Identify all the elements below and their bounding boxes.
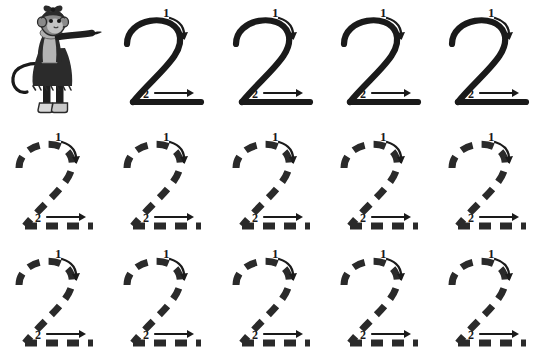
stroke-order-label-2: 2 [252,211,258,225]
worksheet-row-dashed: 1 2 1 2 1 [0,126,546,244]
stroke-order-label-2: 2 [360,211,366,225]
digit-cell-dashed[interactable]: 1 2 [222,243,330,361]
digit-cell-dashed[interactable]: 1 2 [438,126,546,244]
tracing-worksheet: 1 2 1 2 [0,0,546,361]
stroke-order-label-1: 1 [163,5,170,20]
stroke-order-label-1: 1 [272,246,279,261]
stroke-order-label-1: 1 [488,129,495,144]
stroke-order-label-1: 1 [488,246,495,261]
stroke-order-label-1: 1 [163,129,170,144]
stroke-order-label-1: 1 [272,129,279,144]
worksheet-row-dashed: 1 2 1 2 1 [0,243,546,361]
digit-cell-dashed[interactable]: 1 2 [330,243,438,361]
stroke-order-label-2: 2 [143,328,149,342]
digit-cell-dashed[interactable]: 1 2 [5,126,113,244]
digit-cell-dashed[interactable]: 1 2 [5,243,113,361]
stroke-order-label-1: 1 [55,246,62,261]
stroke-order-label-2: 2 [143,211,149,225]
digit-cell-dashed[interactable]: 1 2 [438,243,546,361]
stroke-order-label-2: 2 [360,328,366,342]
stroke-order-label-1: 1 [380,246,387,261]
worksheet-row-solid: 1 2 1 2 [0,2,546,120]
stroke-order-label-1: 1 [380,5,387,20]
stroke-order-label-1: 1 [55,129,62,144]
digit-cell-dashed[interactable]: 1 2 [330,126,438,244]
stroke-order-label-2: 2 [35,328,41,342]
digit-cell-solid[interactable]: 1 2 [330,2,438,120]
stroke-order-label-2: 2 [468,211,474,225]
digit-cell-dashed[interactable]: 1 2 [113,243,221,361]
stroke-order-label-2: 2 [360,87,366,101]
digit-cell-dashed[interactable]: 1 2 [222,126,330,244]
stroke-order-label-2: 2 [35,211,41,225]
stroke-order-label-2: 2 [143,87,149,101]
stroke-order-label-1: 1 [272,5,279,20]
stroke-order-label-2: 2 [252,328,258,342]
stroke-order-label-2: 2 [468,87,474,101]
monkey-girl-pointing-icon [0,2,110,122]
digit-cell-solid[interactable]: 1 2 [113,2,221,120]
stroke-order-label-1: 1 [488,5,495,20]
digit-cell-solid[interactable]: 1 2 [438,2,546,120]
stroke-order-label-2: 2 [252,87,258,101]
digit-cell-dashed[interactable]: 1 2 [113,126,221,244]
digit-cell-solid[interactable]: 1 2 [222,2,330,120]
stroke-order-label-1: 1 [380,129,387,144]
stroke-order-label-1: 1 [163,246,170,261]
stroke-order-label-2: 2 [468,328,474,342]
